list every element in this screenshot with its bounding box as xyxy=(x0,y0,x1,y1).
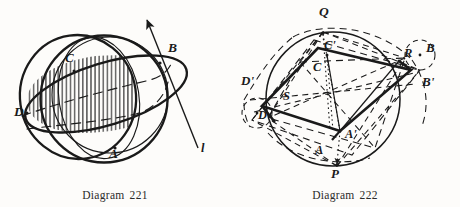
ray-A-Cprime xyxy=(327,55,340,131)
caption-222-number: 222 xyxy=(360,189,378,201)
point-C-prime xyxy=(326,54,329,57)
shaded-lune xyxy=(0,0,230,207)
point-A-prime xyxy=(339,130,342,133)
label-C: C xyxy=(65,50,74,65)
label-C-prime: C' xyxy=(324,38,336,52)
caption-221-word: Diagram xyxy=(82,189,124,201)
label-D: D xyxy=(13,104,24,119)
label-D-prime: D' xyxy=(240,73,254,88)
figure-plate: C B D A l Diagram221 xyxy=(0,0,460,207)
point-R xyxy=(397,59,400,62)
caption-221-number: 221 xyxy=(130,189,148,201)
label-B: B xyxy=(167,40,177,55)
dashed-arc-lower-left xyxy=(244,103,250,127)
label-l: l xyxy=(201,141,205,155)
label-B: B xyxy=(425,40,435,55)
label-D: D xyxy=(257,108,267,122)
caption-222-word: Diagram xyxy=(312,189,354,201)
point-D xyxy=(26,112,29,115)
caption-221: Diagram221 xyxy=(0,189,230,201)
label-B-prime: B' xyxy=(421,74,435,89)
point-C xyxy=(73,70,76,73)
label-A-prime: A' xyxy=(344,127,357,141)
solid-spur-A xyxy=(332,131,340,140)
line-P-B-dashed xyxy=(337,58,405,166)
label-Q: Q xyxy=(319,4,329,19)
label-R: R xyxy=(403,46,412,60)
diagram-221-canvas: C B D A l xyxy=(0,0,230,207)
ray-A-R xyxy=(340,61,399,131)
label-S: S xyxy=(283,89,290,103)
point-Q xyxy=(321,31,324,34)
label-A: A xyxy=(108,146,118,161)
label-A: A xyxy=(314,143,323,157)
dotted-Aprime-P xyxy=(337,131,340,164)
point-B xyxy=(158,61,161,64)
label-C: C xyxy=(313,60,322,74)
quad-secondary-dashed xyxy=(252,40,420,155)
dashed-arc-top xyxy=(293,28,410,58)
caption-222: Diagram222 xyxy=(230,189,460,201)
point-S xyxy=(272,119,275,122)
diagram-222-canvas: Q C' C R B B' D' S D A' A P xyxy=(230,0,460,207)
line-Q-D-dashed xyxy=(268,32,323,118)
diagram-222: Q C' C R B B' D' S D A' A P Diagram222 xyxy=(230,0,460,207)
diagram-221: C B D A l Diagram221 xyxy=(0,0,230,207)
point-B xyxy=(419,54,422,57)
label-P: P xyxy=(331,166,340,181)
